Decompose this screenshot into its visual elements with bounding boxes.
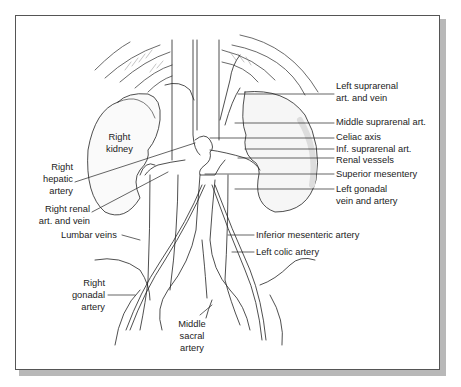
label-right-kidney: Right kidney [106,131,133,155]
great-vessels [140,40,250,330]
label-renal-vessels: Renal vessels [336,154,394,166]
label-celiac-axis: Celiac axis [336,131,381,143]
label-middle-sacral-artery: Middle sacral artery [174,318,210,354]
label-inferior-mesenteric: Inferior mesenteric artery [256,229,359,241]
label-left-gonadal: Left gonadal vein and artery [336,183,398,207]
label-middle-suprarenal: Middle suprarenal art. [336,116,426,128]
left-kidney-shape [243,91,318,212]
ribs-left [95,42,172,92]
label-right-renal: Right renal art. and vein [30,203,90,227]
label-right-hepatic-artery: Right hepatic artery [35,161,73,197]
ribs-right [222,35,318,95]
label-left-colic: Left colic artery [256,246,319,258]
label-lumbar-veins: Lumbar veins [61,229,117,241]
label-right-gonadal-artery: Right gonadal artery [60,277,105,313]
label-superior-mesentery: Superior mesentery [336,168,417,180]
label-left-suprarenal: Left suprarenal art. and vein [336,80,398,104]
